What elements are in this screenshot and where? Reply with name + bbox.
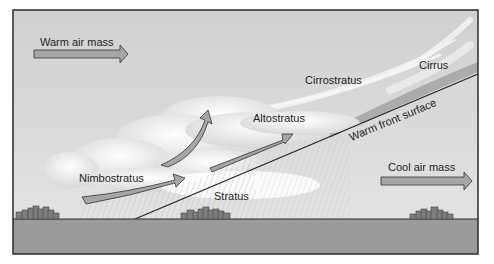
warm-air-mass-label: Warm air mass xyxy=(40,37,114,48)
cool-air-mass-label: Cool air mass xyxy=(388,162,455,173)
nimbostratus-label: Nimbostratus xyxy=(79,173,144,184)
warm-front-diagram: Warm air mass Cirrus Cirrostratus Altost… xyxy=(0,0,494,264)
ground xyxy=(13,219,478,254)
cirrostratus-label: Cirrostratus xyxy=(305,75,362,86)
stratus-label: Stratus xyxy=(214,191,249,202)
altostratus-label: Altostratus xyxy=(253,113,305,124)
cirrus-label: Cirrus xyxy=(419,60,448,71)
